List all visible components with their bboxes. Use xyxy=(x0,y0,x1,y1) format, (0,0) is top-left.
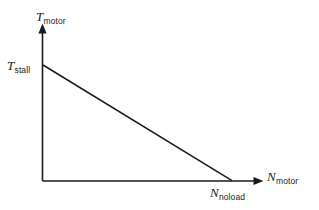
x-axis-label-variable: N xyxy=(267,169,276,184)
noload-speed-label-subscript: noload xyxy=(219,192,245,202)
x-axis-label: Nmotor xyxy=(267,168,298,184)
y-axis-label-subscript: motor xyxy=(44,16,66,26)
stall-torque-label: Tstall xyxy=(7,57,30,73)
torque-speed-line xyxy=(43,65,232,181)
torque-speed-figure: Tmotor Tstall Nnoload Nmotor xyxy=(0,0,319,210)
stall-torque-label-subscript: stall xyxy=(15,65,31,75)
y-axis-label: Tmotor xyxy=(36,8,65,24)
noload-speed-label: Nnoload xyxy=(210,184,245,200)
noload-speed-label-variable: N xyxy=(210,185,219,200)
x-axis-label-subscript: motor xyxy=(276,176,298,186)
y-axis-label-variable: T xyxy=(36,9,43,24)
stall-torque-label-variable: T xyxy=(7,58,14,73)
x-axis-arrowhead-icon xyxy=(254,177,264,185)
